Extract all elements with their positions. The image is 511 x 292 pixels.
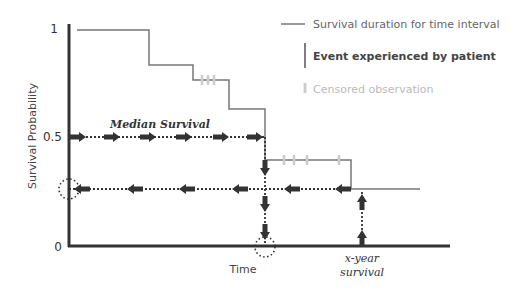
y-tick-1: 1 (50, 22, 58, 36)
x-axis-title: Time (229, 263, 257, 276)
legend-label-censored: Censored observation (313, 83, 433, 96)
median-survival-label: Median Survival (109, 118, 210, 131)
x-year-label-line2: survival (340, 266, 384, 279)
x-year-label-line1: x-year (345, 252, 380, 265)
y-axis-title: Survival Probability (26, 83, 39, 189)
y-tick-0-5: 0.5 (43, 130, 62, 144)
legend-label-survival-duration: Survival duration for time interval (313, 18, 500, 31)
legend-label-event: Event experienced by patient (313, 50, 496, 63)
x-year-survival-guide: x-year survival (59, 179, 384, 279)
legend: Survival duration for time interval Even… (281, 18, 500, 96)
kaplan-meier-chart: Survival duration for time interval Even… (0, 0, 511, 292)
y-tick-0: 0 (54, 240, 62, 254)
